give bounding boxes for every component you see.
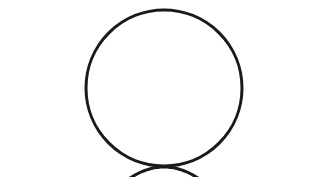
canvas-background [0, 0, 326, 177]
line-drawing-svg [0, 0, 326, 177]
figure-canvas [0, 0, 326, 177]
